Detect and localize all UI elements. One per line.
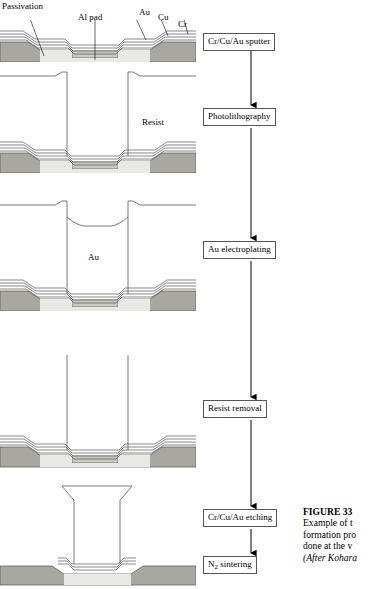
label-cu: Cu: [158, 13, 169, 22]
cross-section-photolithography: [0, 68, 196, 173]
label-cr: Cr: [178, 20, 187, 29]
process-step-n2-sintering[interactable]: N2 sintering: [203, 556, 257, 574]
process-step-resist-removal[interactable]: Resist removal: [203, 400, 267, 418]
label-resist: Resist: [142, 118, 164, 127]
figure-caption: FIGURE 33 Example of t formation pro don…: [303, 506, 372, 563]
cross-section-etching: [0, 482, 196, 589]
label-al-pad: Al pad: [78, 13, 102, 22]
figure-caption-source: (After Kohara: [303, 552, 357, 563]
cross-section-resist-removal: [0, 355, 196, 473]
cross-section-photolithography-drawing: [0, 68, 196, 173]
cross-section-au-electroplating-drawing: [0, 183, 196, 311]
cross-section-sputter-drawing: [0, 20, 196, 62]
cross-section-sputter: [0, 20, 196, 62]
figure-caption-line-2: formation pro: [303, 529, 356, 540]
cross-section-au-electroplating: [0, 183, 196, 311]
n2-sintering-pre: N: [208, 559, 215, 569]
cross-section-resist-removal-drawing: [0, 355, 196, 473]
figure-caption-line-3: done at the v: [303, 540, 352, 551]
label-au: Au: [139, 8, 150, 17]
process-step-photolithography[interactable]: Photolithography: [203, 108, 276, 126]
n2-sintering-post: sintering: [218, 559, 252, 569]
process-step-sputter[interactable]: Cr/Cu/Au sputter: [203, 33, 275, 51]
label-au-plated: Au: [88, 253, 99, 262]
figure-caption-line-1: Example of t: [303, 517, 353, 528]
cross-section-etching-drawing: [0, 482, 196, 589]
n2-sintering-subscript: 2: [215, 563, 219, 571]
process-step-etching[interactable]: Cr/Cu/Au etching: [203, 509, 277, 527]
flowchart-arrows: [196, 0, 306, 589]
figure-caption-title: FIGURE 33: [303, 506, 352, 517]
process-step-au-electroplating[interactable]: Au electroplating: [203, 241, 276, 259]
process-flowchart: Cr/Cu/Au sputter Photolithography Au ele…: [196, 0, 306, 589]
label-passivation: Passivation: [2, 2, 43, 11]
